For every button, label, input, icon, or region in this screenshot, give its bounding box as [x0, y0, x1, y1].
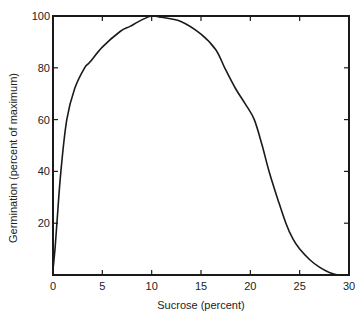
x-tick-label: 10	[146, 280, 158, 292]
y-tick-label: 100	[32, 10, 50, 22]
x-tick-label: 20	[244, 280, 256, 292]
chart-svg: 051015202530 20406080100 Sucrose (percen…	[0, 0, 364, 324]
plot-border	[53, 16, 349, 275]
x-tick-label: 30	[343, 280, 355, 292]
plot-frame	[53, 16, 349, 275]
y-tick-label: 80	[38, 62, 50, 74]
x-tick-label: 25	[294, 280, 306, 292]
x-tick-label: 5	[99, 280, 105, 292]
germination-chart: 051015202530 20406080100 Sucrose (percen…	[0, 0, 364, 324]
y-tick-label: 60	[38, 114, 50, 126]
x-tick-label: 0	[50, 280, 56, 292]
y-axis-title: Germination (percent of maximum)	[7, 73, 19, 243]
y-tick-label: 40	[38, 165, 50, 177]
x-axis-ticks: 051015202530	[50, 16, 355, 292]
y-tick-label: 20	[38, 217, 50, 229]
germination-curve	[53, 16, 344, 275]
x-tick-label: 15	[195, 280, 207, 292]
y-axis-ticks: 20406080100	[32, 10, 349, 229]
x-axis-title: Sucrose (percent)	[157, 299, 244, 311]
